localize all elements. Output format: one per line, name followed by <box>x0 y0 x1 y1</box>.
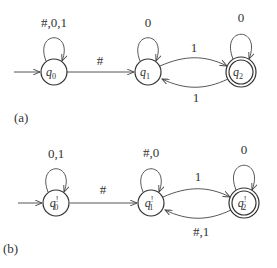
state-q1: q1 <box>135 59 161 85</box>
svg-text:q!0: q!0 <box>50 195 59 212</box>
self-loop-q1 <box>138 38 159 61</box>
transition-label: #,0,1 <box>41 15 67 30</box>
svg-text:q!1: q!1 <box>145 195 154 212</box>
svg-text:q!2: q!2 <box>238 195 247 212</box>
state-q1-prime: q!1 <box>138 190 164 216</box>
transition-label: 1 <box>193 90 200 105</box>
self-loop-q0 <box>44 38 65 61</box>
transition-label: 1 <box>195 169 202 184</box>
state-q2-accepting: q2 <box>226 57 256 87</box>
transition-label: # <box>97 53 104 68</box>
edge-q1-q2 <box>160 58 227 66</box>
transition-label: 0 <box>241 142 248 157</box>
transition-label: 0 <box>238 10 245 25</box>
transition-label: 0,1 <box>48 146 64 161</box>
caption-b: (b) <box>3 241 18 256</box>
edge-q2p-q1p <box>165 210 231 218</box>
state-q0: q0 <box>41 59 67 85</box>
transition-label: 1 <box>191 40 198 55</box>
transition-label: 0 <box>145 15 152 30</box>
self-loop-q0p <box>46 169 67 192</box>
self-loop-q1p <box>141 169 162 192</box>
self-loop-q2 <box>230 34 251 59</box>
self-loop-q2p <box>233 165 254 190</box>
edge-q2-q1 <box>162 79 228 87</box>
state-q0-prime: q!0 <box>43 190 69 216</box>
diagram-b: 0,1 # #,0 1 #,1 0 q!0 q!1 q!2 (b) <box>3 142 259 256</box>
transition-label: #,1 <box>193 224 209 239</box>
state-q2-prime-accepting: q!2 <box>229 188 259 218</box>
transition-label: # <box>100 182 107 197</box>
transition-label: #,0 <box>143 145 159 160</box>
caption-a: (a) <box>14 110 28 125</box>
diagram-a: #,0,1 # 0 1 1 0 q0 q1 q2 (a) <box>14 10 256 125</box>
edge-q1p-q2p <box>163 189 230 197</box>
automata-figure: #,0,1 # 0 1 1 0 q0 q1 q2 (a) <box>0 0 277 268</box>
